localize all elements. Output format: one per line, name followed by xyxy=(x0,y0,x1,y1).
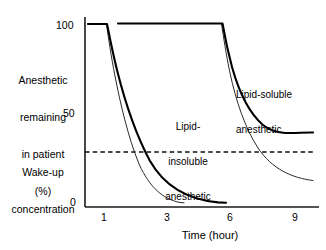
y-axis-title-line-1: Anesthetic xyxy=(6,74,80,86)
wake-up-label-line-2: concentration xyxy=(6,203,80,215)
anesthetic-elimination-chart: Anesthetic remaining in patient (%) Wake… xyxy=(0,0,326,250)
annotation-insoluble-line-1: Lipid- xyxy=(152,121,224,133)
y-tick-label-50: 50 xyxy=(63,107,75,119)
wake-up-label-line-1: Wake-up xyxy=(6,166,80,178)
wake-up-concentration-label: Wake-up concentration xyxy=(6,141,80,240)
x-tick-label-1: 1 xyxy=(101,211,107,223)
annotation-lipid-insoluble-anesthetic: Lipid- insoluble anesthetic xyxy=(152,97,224,227)
annotation-lipid-soluble-anesthetic: Lipid-soluble anesthetic xyxy=(236,65,320,159)
x-tick-label-6: 6 xyxy=(227,211,233,223)
x-tick-label-9: 9 xyxy=(292,211,298,223)
annotation-insoluble-line-2: insoluble xyxy=(152,156,224,168)
annotation-soluble-line-1: Lipid-soluble xyxy=(236,89,320,101)
x-axis-title: Time (hour) xyxy=(155,229,265,242)
annotation-insoluble-line-3: anesthetic xyxy=(152,191,224,203)
y-tick-label-100: 100 xyxy=(56,19,74,31)
y-tick-label-0: 0 xyxy=(70,196,76,208)
annotation-soluble-line-2: anesthetic xyxy=(236,124,320,136)
